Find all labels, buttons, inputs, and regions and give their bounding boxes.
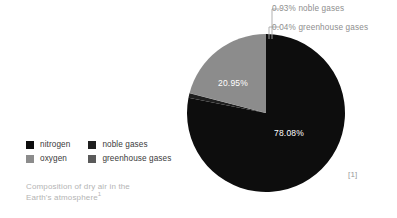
slice-label-oxygen: 20.95% <box>218 78 248 88</box>
legend-swatch-icon <box>26 155 34 163</box>
caption-line-2: Earth's atmosphere <box>26 193 98 202</box>
caption-footnote-marker: 1 <box>98 191 102 197</box>
legend-swatch-icon <box>26 141 34 149</box>
legend: nitrogennoble gasesoxygengreenhouse gase… <box>26 140 171 163</box>
legend-item-label: nitrogen <box>40 140 70 149</box>
pie-svg <box>186 33 346 193</box>
legend-item-greenhouse-gases[interactable]: greenhouse gases <box>88 154 171 163</box>
legend-item-noble-gases[interactable]: noble gases <box>88 140 171 149</box>
callout-label-greenhouse-gases: 0.04% greenhouse gases <box>272 23 368 32</box>
legend-swatch-icon <box>88 141 96 149</box>
legend-item-label: greenhouse gases <box>102 154 171 163</box>
callout-label-noble-gases: 0.93% noble gases <box>272 4 344 13</box>
caption-line-1: Composition of dry air in the <box>26 182 130 191</box>
citation-marker: [1] <box>348 170 358 179</box>
slice-label-nitrogen: 78.08% <box>274 128 304 138</box>
legend-item-label: noble gases <box>102 140 147 149</box>
pie-chart: 78.08% 20.95% <box>186 33 346 193</box>
legend-item-nitrogen[interactable]: nitrogen <box>26 140 70 149</box>
figure-caption: Composition of dry air in the Earth's at… <box>26 181 196 203</box>
legend-item-oxygen[interactable]: oxygen <box>26 154 70 163</box>
legend-item-label: oxygen <box>40 154 67 163</box>
pie-chart-figure: 78.08% 20.95% 0.93% noble gases 0.04% gr… <box>0 0 397 218</box>
legend-swatch-icon <box>88 155 96 163</box>
